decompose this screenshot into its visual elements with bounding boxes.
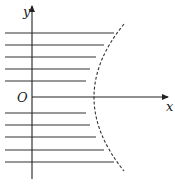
y-axis-label: y	[22, 4, 31, 19]
origin-label: O	[17, 90, 28, 105]
diagram-canvas: y x O	[0, 0, 175, 189]
x-axis-label: x	[166, 99, 174, 114]
